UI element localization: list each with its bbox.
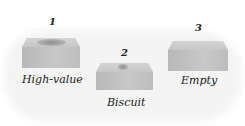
item-3-label: Empty xyxy=(181,74,217,87)
item-1-contents xyxy=(37,39,66,46)
item-2-label: Biscuit xyxy=(107,96,145,109)
item-2-number: 2 xyxy=(121,47,128,58)
item-2-box xyxy=(96,63,153,90)
item-1-number: 1 xyxy=(49,16,56,27)
item-1-label: High-value xyxy=(22,73,83,86)
item-3-box xyxy=(168,41,228,71)
item-2-contents xyxy=(118,64,128,70)
item-1-box xyxy=(22,38,80,68)
item-3-number: 3 xyxy=(195,22,202,33)
